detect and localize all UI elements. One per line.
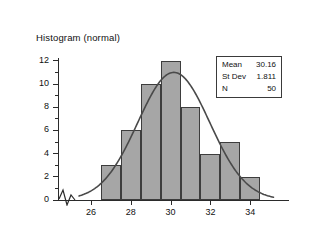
stats-key: N bbox=[221, 83, 255, 95]
histogram-bars bbox=[0, 0, 309, 237]
histogram-bar bbox=[240, 177, 260, 200]
histogram-bar bbox=[141, 84, 161, 200]
axis-break-icon bbox=[58, 186, 80, 206]
histogram-bar bbox=[161, 61, 181, 200]
stats-value: 30.16 bbox=[255, 59, 277, 71]
histogram-bar bbox=[200, 154, 220, 200]
stats-key: Mean bbox=[221, 59, 255, 71]
histogram-bar bbox=[181, 107, 201, 200]
stats-legend-box: Mean30.16St Dev1.811N50 bbox=[216, 56, 282, 98]
stats-value: 1.811 bbox=[255, 71, 277, 83]
stats-row: St Dev1.811 bbox=[221, 71, 277, 83]
histogram-figure: Histogram (normal) 024681012 2628303234 … bbox=[0, 0, 309, 237]
stats-key: St Dev bbox=[221, 71, 255, 83]
stats-row: N50 bbox=[221, 83, 277, 95]
histogram-bar bbox=[121, 130, 141, 200]
histogram-bar bbox=[101, 165, 121, 200]
stats-table: Mean30.16St Dev1.811N50 bbox=[221, 59, 277, 94]
stats-row: Mean30.16 bbox=[221, 59, 277, 71]
stats-value: 50 bbox=[255, 83, 277, 95]
histogram-bar bbox=[220, 142, 240, 200]
